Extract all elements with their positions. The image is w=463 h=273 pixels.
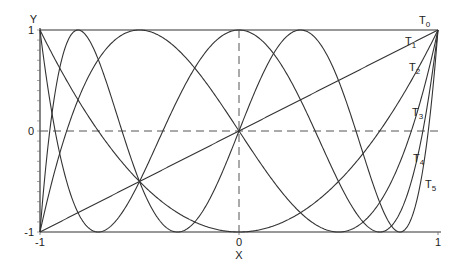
x-tick-label: -1	[35, 236, 45, 248]
series-label-T1: T1	[405, 35, 417, 50]
x-tick-label: 1	[435, 236, 441, 248]
y-axis-label: Y	[30, 13, 38, 25]
chebyshev-chart: -101-101XYT0T1T2T3T4T5	[0, 0, 463, 273]
x-tick-label: 0	[236, 236, 242, 248]
x-axis-label: X	[235, 249, 243, 261]
labels: -101-101XYT0T1T2T3T4T5	[24, 13, 441, 261]
y-tick-label: -1	[24, 226, 34, 238]
y-tick-label: 1	[28, 24, 34, 36]
series-label-T0: T0	[419, 14, 431, 29]
y-tick-label: 0	[28, 125, 34, 137]
series-label-T2: T2	[409, 61, 421, 76]
series-label-T5: T5	[425, 178, 437, 193]
series-label-T3: T3	[412, 106, 424, 121]
series-label-T4: T4	[413, 152, 425, 167]
